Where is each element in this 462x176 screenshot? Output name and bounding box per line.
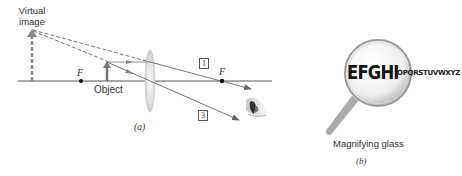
magnified-text: EFGHI	[347, 60, 399, 84]
virtual-image-label-line1: Virtual	[8, 5, 56, 16]
panel-a-caption: (a)	[134, 122, 145, 133]
panel-b-caption: (b)	[356, 156, 367, 167]
virtual-image-label: Virtual image	[8, 5, 56, 27]
magnifier-handle	[326, 96, 358, 134]
ray-3-mid-arrow-icon	[125, 69, 134, 74]
dashed-ray-extension-3	[33, 31, 107, 61]
virtual-image-label-line2: image	[8, 16, 56, 27]
ray-3-label: 3	[198, 110, 208, 121]
object-label: Object	[94, 84, 123, 95]
focal-point-right	[220, 79, 224, 83]
focal-point-left	[79, 79, 83, 83]
dashed-ray-extension-1	[33, 30, 150, 62]
ray-1-label: 1	[199, 58, 209, 69]
focal-point-right-label: F	[219, 66, 225, 77]
virtual-image-arrowhead-icon	[27, 29, 37, 37]
focal-point-left-label: F	[77, 67, 83, 78]
ray-1-mid-arrow-icon	[126, 60, 133, 64]
panel-b-diagram	[326, 40, 411, 134]
small-text: OPQRSTUVWXYZ	[397, 69, 460, 77]
magnifying-glass-label: Magnifying glass	[333, 138, 404, 149]
panel-a-diagram	[18, 29, 272, 120]
figure: Virtual image F F Object 1 3 (a) EFGHI O…	[0, 0, 462, 176]
eye-icon	[246, 98, 268, 117]
